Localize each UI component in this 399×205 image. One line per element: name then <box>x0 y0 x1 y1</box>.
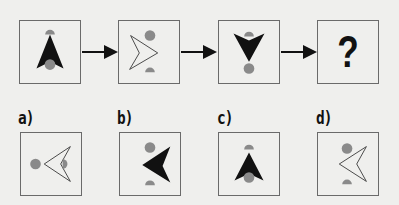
half-circle-icon <box>244 32 254 37</box>
option-a-box[interactable] <box>20 132 82 196</box>
outline-arrowhead-left-icon <box>318 133 378 195</box>
circle-icon <box>244 172 255 183</box>
filled-arrowhead-left-icon <box>120 133 180 195</box>
option-b-label: b) <box>117 108 133 128</box>
sequence-arrow-icon <box>181 44 218 60</box>
half-circle-icon <box>63 159 68 169</box>
option-a-label: a) <box>18 108 34 128</box>
sequence-arrow-icon <box>281 44 318 60</box>
half-circle-icon <box>45 30 55 35</box>
option-b-box[interactable] <box>119 132 181 196</box>
circle-icon <box>342 143 353 154</box>
option-d-label: d) <box>316 108 332 128</box>
filled-arrowhead-up-icon <box>20 21 80 83</box>
half-circle-icon <box>342 179 352 184</box>
outline-arrowhead-right-icon <box>119 21 179 83</box>
sequence-box-2 <box>118 20 180 84</box>
filled-arrowhead-up-icon <box>219 133 279 195</box>
sequence-box-1 <box>19 20 81 84</box>
circle-icon <box>145 30 156 41</box>
half-circle-icon <box>244 145 254 150</box>
circle-icon <box>45 59 56 70</box>
half-circle-icon <box>145 67 155 72</box>
sequence-box-4: ? <box>317 20 379 84</box>
circle-icon <box>244 63 255 74</box>
question-mark: ? <box>324 21 372 83</box>
half-circle-icon <box>145 180 155 185</box>
outline-arrowhead-left-icon <box>21 133 81 195</box>
circle-icon <box>30 159 41 170</box>
sequence-arrow-icon <box>82 44 119 60</box>
option-c-label: c) <box>217 108 233 128</box>
option-c-box[interactable] <box>218 132 280 196</box>
option-d-box[interactable] <box>317 132 379 196</box>
circle-icon <box>145 142 156 153</box>
filled-arrowhead-down-icon <box>219 21 279 83</box>
sequence-box-3 <box>218 20 280 84</box>
